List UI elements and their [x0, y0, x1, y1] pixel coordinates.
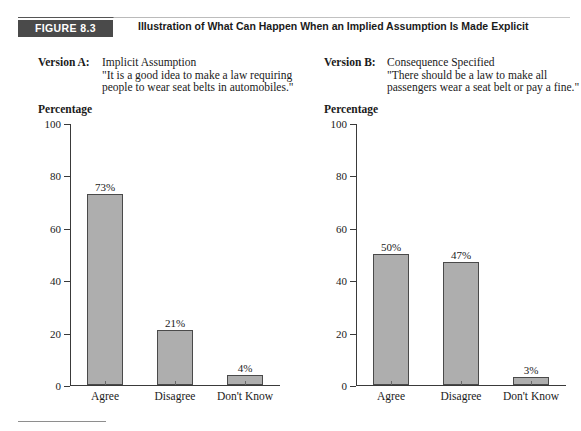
bar-chart-version-b: 02040608010050%Agree47%Disagree3%Don't K… [322, 118, 572, 398]
y-axis-tick-label: 0 [342, 381, 348, 392]
y-axis-tick-label: 80 [50, 171, 61, 182]
version-a-quote-line-2: people to wear seat belts in automobiles… [102, 81, 332, 94]
y-axis-tick-label: 60 [336, 224, 347, 235]
figure-footer-rule [18, 421, 106, 422]
y-axis-tick-label: 20 [50, 329, 61, 340]
x-axis-category-label: Don't Know [217, 390, 273, 403]
x-axis-category-label: Disagree [441, 390, 482, 403]
y-axis-title-b: Percentage [324, 103, 378, 115]
version-b-heading: Consequence Specified [387, 56, 581, 69]
x-axis-category-label: Disagree [155, 390, 196, 403]
category-slot: Agree [70, 124, 140, 385]
category-slot: Don't Know [210, 124, 280, 385]
figure-header: FIGURE 8.3 Illustration of What Can Happ… [18, 20, 570, 50]
version-a-body: Implicit Assumption "It is a good idea t… [102, 56, 332, 94]
version-a-heading: Implicit Assumption [102, 56, 332, 69]
version-b-label: Version B: [324, 56, 376, 69]
category-slot: Disagree [140, 124, 210, 385]
category-slot: Disagree [426, 124, 496, 385]
figure-title: Illustration of What Can Happen When an … [138, 20, 568, 34]
y-axis-tick-label: 100 [45, 119, 62, 130]
figure-number-badge: FIGURE 8.3 [18, 20, 113, 37]
figure-top-rule [18, 17, 570, 18]
x-axis-category-label: Agree [377, 390, 405, 403]
y-axis-tick-label: 40 [336, 276, 347, 287]
x-axis-line-a [70, 385, 280, 386]
x-axis-category-label: Agree [91, 390, 119, 403]
plot-area-a: 02040608010073%Agree21%Disagree4%Don't K… [70, 124, 280, 386]
version-a-quote-line-1: "It is a good idea to make a law requiri… [102, 69, 332, 82]
y-axis-tick [350, 386, 356, 387]
plot-area-b: 02040608010050%Agree47%Disagree3%Don't K… [356, 124, 566, 386]
y-axis-tick [64, 386, 70, 387]
version-b-body: Consequence Specified "There should be a… [387, 56, 581, 94]
y-axis-tick-label: 20 [336, 329, 347, 340]
y-axis-tick-label: 80 [336, 171, 347, 182]
version-a-label: Version A: [38, 56, 90, 69]
version-b-quote-line-1: "There should be a law to make all [387, 69, 581, 82]
y-axis-title-a: Percentage [38, 103, 92, 115]
version-b-quote-line-2: passengers wear a seat belt or pay a fin… [387, 81, 581, 94]
bar-chart-version-a: 02040608010073%Agree21%Disagree4%Don't K… [36, 118, 286, 398]
y-axis-tick-label: 60 [50, 224, 61, 235]
y-axis-tick-label: 40 [50, 276, 61, 287]
category-slot: Don't Know [496, 124, 566, 385]
y-axis-tick-label: 0 [56, 381, 62, 392]
category-slot: Agree [356, 124, 426, 385]
x-axis-category-label: Don't Know [503, 390, 559, 403]
y-axis-tick-label: 100 [331, 119, 348, 130]
x-axis-line-b [356, 385, 566, 386]
